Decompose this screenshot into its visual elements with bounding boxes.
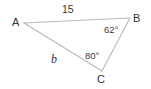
angle-label-b: 62°	[104, 25, 118, 35]
triangle-svg	[0, 0, 151, 89]
side-ab-line	[24, 18, 130, 23]
vertex-label-a: A	[12, 17, 19, 28]
vertex-label-c: C	[97, 74, 105, 85]
side-length-label-ab: 15	[62, 4, 74, 15]
vertex-label-b: B	[133, 13, 140, 24]
angle-label-c: 80°	[85, 51, 99, 61]
side-length-label-ac: b	[51, 53, 57, 65]
triangle-figure: A B C 15 b 62° 80°	[0, 0, 151, 89]
side-ac-line	[24, 23, 102, 71]
